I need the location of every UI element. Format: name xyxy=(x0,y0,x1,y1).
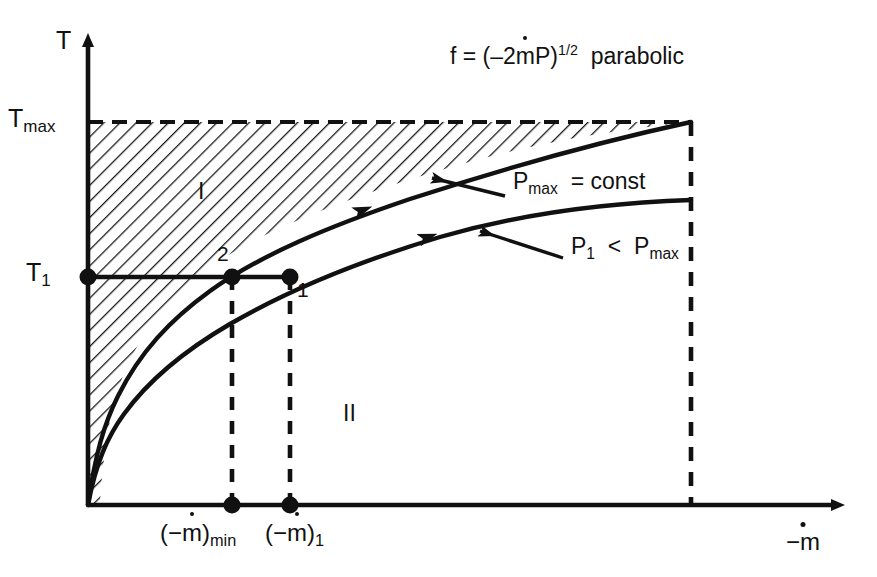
p1-subscript: 1 xyxy=(586,245,595,263)
region-label-two: II xyxy=(343,400,356,427)
mdot-accent-axis: −m xyxy=(786,528,820,556)
formula-descriptor: parabolic xyxy=(591,43,684,69)
marker-point-1 xyxy=(282,269,299,286)
curve-label-pmax: Pmax = const xyxy=(513,168,645,198)
x-tick-label-mdot-one: (−m)1 xyxy=(265,519,324,550)
less-than-sign: < xyxy=(608,233,621,259)
x-tick-label-mdot-min: (−m)min xyxy=(160,519,236,550)
formula-exponent: 1/2 xyxy=(558,42,578,58)
y-tick-label-tmax: Tmax xyxy=(8,104,55,137)
mdot-one-subscript: 1 xyxy=(315,531,324,550)
diagram-svg xyxy=(0,0,877,577)
mdot-min-subscript: min xyxy=(210,531,236,550)
marker-t1-on-axis xyxy=(80,269,97,286)
t1-subscript: 1 xyxy=(41,271,50,291)
mdot-accent-one: m xyxy=(287,519,307,547)
diagram-canvas: T Tmax T1 −m f = (–2mP)1/2 parabolic Pma… xyxy=(0,0,877,577)
marker-point-2 xyxy=(224,269,241,286)
formula-parabolic: f = (–2mP)1/2 parabolic xyxy=(450,42,684,70)
curve-label-p1: P1 < Pmax xyxy=(571,233,679,263)
marker-mdot-min xyxy=(224,497,241,514)
x-axis-label: −m xyxy=(786,528,820,556)
tmax-subscript: max xyxy=(23,117,55,137)
y-axis-label: T xyxy=(56,26,71,55)
y-tick-label-t1: T1 xyxy=(26,258,51,291)
leader-line-p1 xyxy=(480,231,563,258)
p1-pmax-subscript: max xyxy=(649,245,679,263)
region-label-one: I xyxy=(198,178,204,205)
point-label-one: 1 xyxy=(297,278,309,302)
pmax-subscript: max xyxy=(528,180,558,198)
point-label-two: 2 xyxy=(217,242,229,266)
pmax-const-text: = const xyxy=(571,168,646,194)
mdot-accent-min: m xyxy=(182,519,202,547)
mdot-accent-formula: m xyxy=(516,43,535,70)
